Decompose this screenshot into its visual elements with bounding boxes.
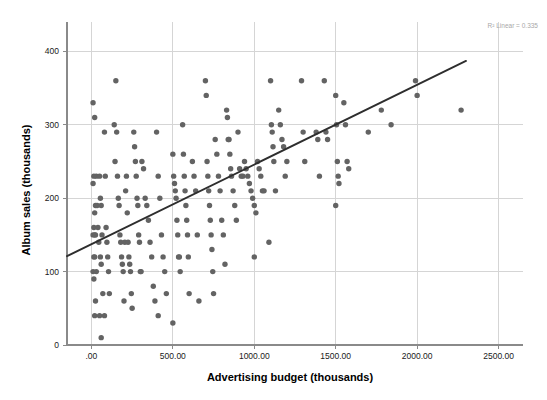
scatter-point [252,254,257,259]
scatter-point [242,159,247,164]
y-axis-title: Album sales (thousands) [20,124,32,255]
scatter-point [299,78,304,83]
scatter-point [343,122,348,127]
scatter-point [261,188,266,193]
scatter-point [213,137,218,142]
scatter-point [170,320,175,325]
gridlines-group [67,22,523,345]
scatter-point [256,166,261,171]
scatter-point [175,232,180,237]
scatter-point [149,254,154,259]
scatter-point [98,254,103,259]
scatter-points-group [90,78,463,340]
y-tick-labels-group: 0100200300400 [45,46,59,350]
scatter-point [276,107,281,112]
scatter-point [414,93,419,98]
y-tick-label: 400 [45,46,59,56]
scatter-point [221,232,226,237]
scatter-point [224,107,229,112]
scatter-point [129,306,134,311]
scatter-point [346,166,351,171]
x-tick-label: 1500.00 [320,351,351,361]
y-tick-label: 100 [45,267,59,277]
scatter-point [142,195,147,200]
scatter-point [208,218,213,223]
scatter-point [125,210,130,215]
scatter-point [205,173,210,178]
scatter-point [269,122,274,127]
scatter-point [162,269,167,274]
scatter-point [217,188,222,193]
scatter-point [127,262,132,267]
scatter-point [147,240,152,245]
scatter-point [204,159,209,164]
scatter-point [154,129,159,134]
scatter-point [245,173,250,178]
scatter-point [128,269,133,274]
scatter-point [136,232,141,237]
scatter-point [341,100,346,105]
x-axis-title: Advertising budget (thousands) [207,371,374,383]
scatter-point [216,173,221,178]
scatter-point [117,232,122,237]
scatter-point [284,159,289,164]
scatter-point [250,195,255,200]
scatter-point [93,298,98,303]
scatter-point [92,313,97,318]
scatter-point [99,262,104,267]
scatter-point [183,203,188,208]
x-tick-label: 2000.00 [402,351,433,361]
scatter-point [102,313,107,318]
scatter-point [253,210,258,215]
scatter-point [182,173,187,178]
scatter-point [107,291,112,296]
scatter-point [174,218,179,223]
scatter-point [335,159,340,164]
scatter-point [315,137,320,142]
scatter-point [209,247,214,252]
plot-canvas: .00500.001000.001500.002000.002500.00 01… [0,0,547,400]
scatter-point [115,173,120,178]
scatter-point [160,254,165,259]
scatter-point [173,195,178,200]
scatter-point [139,159,144,164]
scatter-point [278,122,283,127]
scatter-point [172,181,177,186]
scatter-point [190,159,195,164]
scatter-point [270,129,275,134]
scatter-point [92,210,97,215]
scatter-point [234,218,239,223]
scatter-point [114,129,119,134]
scatter-point [227,151,232,156]
scatter-point [156,173,161,178]
scatter-point [186,254,191,259]
scatter-point [232,203,237,208]
scatter-point [203,78,208,83]
scatter-point [131,129,136,134]
scatter-point [123,188,128,193]
scatter-point [248,188,253,193]
y-tick-label: 200 [45,193,59,203]
scatter-point [204,93,209,98]
regression-line-group [67,61,466,256]
scatter-point [104,240,109,245]
scatter-point [120,262,125,267]
y-tick-label: 300 [45,120,59,130]
scatter-point [94,269,99,274]
scatter-point [151,284,156,289]
scatter-point [98,195,103,200]
scatter-point [91,276,96,281]
scatter-point [137,240,142,245]
scatter-point [266,240,271,245]
scatter-point [366,129,371,134]
scatter-point [228,166,233,171]
scatter-point [126,254,131,259]
x-tick-label: .00 [86,351,98,361]
scatter-point [97,173,102,178]
scatter-point [283,173,288,178]
scatter-point [225,115,230,120]
scatter-point [119,254,124,259]
scatter-point [141,166,146,171]
scatter-point [112,159,117,164]
scatter-point [97,313,102,318]
